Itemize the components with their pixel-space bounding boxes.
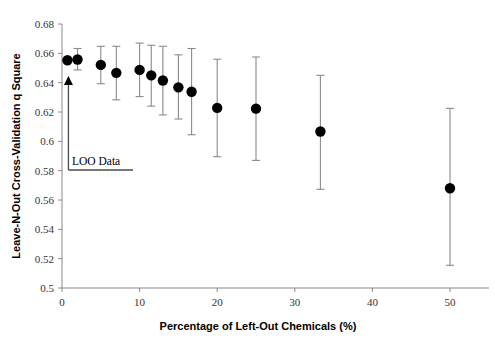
data-point-marker <box>146 70 156 80</box>
y-tick-label: 0.58 <box>35 165 55 177</box>
y-tick-label: 0.56 <box>35 194 55 206</box>
x-tick-label: 30 <box>289 296 301 308</box>
chart-figure: 0.50.520.540.560.580.60.620.640.660.6801… <box>0 0 495 340</box>
y-tick-label: 0.68 <box>35 18 55 30</box>
x-tick-label: 20 <box>212 296 224 308</box>
annotation-arrowhead-icon <box>64 76 73 85</box>
y-tick-label: 0.54 <box>35 223 55 235</box>
x-tick-label: 50 <box>445 296 457 308</box>
x-tick-label: 10 <box>134 296 146 308</box>
data-point-marker <box>445 183 455 193</box>
data-point-marker <box>62 55 72 65</box>
data-point-marker <box>72 54 82 64</box>
data-point-marker <box>186 87 196 97</box>
data-point-marker <box>315 126 325 136</box>
y-tick-label: 0.5 <box>40 282 54 294</box>
y-tick-label: 0.64 <box>35 77 55 89</box>
y-tick-label: 0.6 <box>40 135 54 147</box>
scatter-plot-with-error-bars: 0.50.520.540.560.580.60.620.640.660.6801… <box>0 0 495 340</box>
data-point-marker <box>173 82 183 92</box>
y-tick-label: 0.66 <box>35 47 55 59</box>
data-point-marker <box>134 65 144 75</box>
x-axis-title: Percentage of Left-Out Chemicals (%) <box>160 320 357 332</box>
x-tick-label: 40 <box>367 296 379 308</box>
data-point-marker <box>212 103 222 113</box>
y-tick-label: 0.52 <box>35 253 54 265</box>
data-point-marker <box>251 103 261 113</box>
y-axis-title: Leave-N-Out Cross-Validation q Square <box>10 53 22 258</box>
data-point-marker <box>158 75 168 85</box>
x-tick-label: 0 <box>59 296 65 308</box>
data-point-marker <box>96 60 106 70</box>
y-tick-label: 0.62 <box>35 106 54 118</box>
annotation-label-loo-data: LOO Data <box>72 155 120 167</box>
data-point-marker <box>111 68 121 78</box>
